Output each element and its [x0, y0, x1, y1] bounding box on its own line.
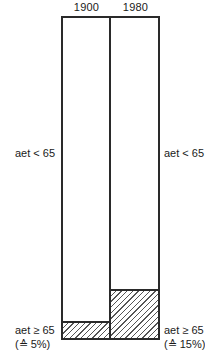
label-over65-1900-pct: (≙ 5%) [15, 338, 50, 351]
bar-1980 [111, 16, 158, 339]
label-over65-1900: aet ≥ 65 [15, 324, 55, 337]
label-over65-1980: aet ≥ 65 [164, 324, 204, 337]
label-under65-1980: aet < 65 [164, 147, 204, 160]
bar-1900-over65-segment [63, 321, 109, 339]
bar-1900 [63, 16, 109, 339]
category-label-1900: 1900 [62, 1, 111, 13]
category-label-1980: 1980 [111, 1, 160, 13]
label-under65-1900: aet < 65 [15, 147, 55, 160]
bar-1980-over65-segment [111, 289, 158, 339]
label-over65-1980-pct: (≙ 15%) [164, 338, 205, 351]
bar-divider [109, 16, 111, 340]
